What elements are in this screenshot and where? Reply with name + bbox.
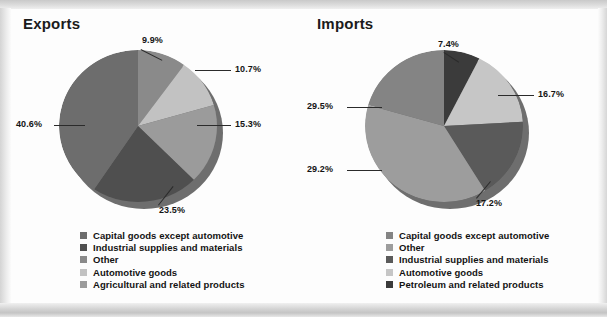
frame-bottom-bevel <box>0 303 607 317</box>
panel-imports: Imports <box>305 9 598 303</box>
pie-label-imports-0: 7.4% <box>438 39 459 49</box>
pie-label-imports-3: 29.2% <box>307 164 333 174</box>
legend-item-label: Capital goods except automotive <box>93 230 243 241</box>
figure-canvas: Exports <box>11 9 598 303</box>
pie-label-imports-4: 29.5% <box>307 101 333 111</box>
leader-line-exports-1 <box>195 70 231 71</box>
pie-label-exports-2: 15.3% <box>235 119 261 129</box>
legend-swatch-icon <box>80 269 87 276</box>
legend-imports: Capital goods except automotive Other In… <box>386 229 549 291</box>
legend-item: Capital goods except automotive <box>80 229 245 241</box>
pie-label-exports-4: 40.6% <box>16 119 42 129</box>
pie-label-imports-2: 17.2% <box>476 198 502 208</box>
page-title-imports: Imports <box>317 15 373 32</box>
frame-top-bevel <box>0 0 607 9</box>
legend-swatch-icon <box>386 256 393 263</box>
legend-item: Agricultural and related products <box>80 279 245 291</box>
legend-swatch-icon <box>386 244 393 251</box>
leader-line-imports-3 <box>347 170 382 171</box>
legend-item: Industrial supplies and materials <box>386 254 549 266</box>
legend-item-label: Agricultural and related products <box>93 279 245 290</box>
legend-item-label: Automotive goods <box>399 267 483 278</box>
pie-slices-exports <box>59 50 217 202</box>
pie-label-imports-1: 16.7% <box>538 89 564 99</box>
legend-item-label: Other <box>399 242 425 253</box>
legend-item-label: Automotive goods <box>93 267 177 278</box>
legend-item-label: Industrial supplies and materials <box>399 254 548 265</box>
pie-chart-exports <box>59 50 223 214</box>
legend-swatch-icon <box>80 232 87 239</box>
panel-exports: Exports <box>11 9 304 303</box>
legend-item: Automotive goods <box>386 266 549 278</box>
figure-frame: Exports <box>0 0 607 317</box>
legend-item: Other <box>386 241 549 253</box>
legend-item: Petroleum and related products <box>386 279 549 291</box>
legend-swatch-icon <box>386 232 393 239</box>
pie-label-exports-1: 10.7% <box>235 64 261 74</box>
legend-swatch-icon <box>80 256 87 263</box>
pie-slices-imports <box>365 50 523 202</box>
frame-right-bevel <box>598 8 607 304</box>
legend-item-label: Industrial supplies and materials <box>93 242 242 253</box>
legend-item-label: Other <box>93 254 119 265</box>
legend-item: Other <box>80 254 245 266</box>
frame-left-bevel <box>0 8 11 304</box>
pie-label-exports-0: 9.9% <box>142 35 163 45</box>
pie-chart-imports <box>365 50 529 214</box>
legend-swatch-icon <box>386 269 393 276</box>
leader-line-imports-1 <box>498 95 534 96</box>
legend-item-label: Petroleum and related products <box>399 279 544 290</box>
leader-line-exports-2 <box>197 125 231 126</box>
legend-item: Industrial supplies and materials <box>80 241 245 253</box>
legend-item: Capital goods except automotive <box>386 229 549 241</box>
legend-swatch-icon <box>80 281 87 288</box>
legend-item: Automotive goods <box>80 266 245 278</box>
legend-swatch-icon <box>386 281 393 288</box>
legend-item-label: Capital goods except automotive <box>399 230 549 241</box>
leader-line-exports-4 <box>54 125 85 126</box>
pie-label-exports-3: 23.5% <box>159 205 185 215</box>
legend-swatch-icon <box>80 244 87 251</box>
page-title-exports: Exports <box>23 15 80 32</box>
leader-line-imports-4 <box>347 107 382 108</box>
legend-exports: Capital goods except automotive Industri… <box>80 229 245 291</box>
